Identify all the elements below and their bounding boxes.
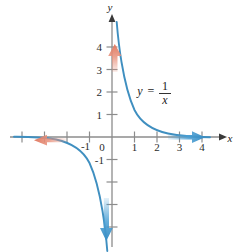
x-tick-label-2: 2 — [154, 141, 160, 153]
y-tick-label-2: 2 — [97, 86, 103, 98]
y-axis-name: y — [107, 1, 113, 13]
equation-denominator: x — [161, 93, 168, 107]
y-tick-label-1: 1 — [97, 109, 103, 121]
equation-lhs: y — [136, 84, 143, 98]
x-tick-label-neg1: -1 — [81, 140, 90, 152]
x-axis-name: x — [227, 132, 233, 144]
equation-numerator: 1 — [162, 79, 168, 93]
y-tick-label-3: 3 — [97, 64, 103, 76]
graph-figure: -1 1 2 3 4 4 3 2 1 -1 0 x y y = 1 x — [0, 0, 237, 252]
equation-operator: = — [148, 84, 155, 98]
origin-label: 0 — [99, 141, 105, 153]
x-tick-label-3: 3 — [177, 141, 183, 153]
x-tick-label-1: 1 — [132, 141, 138, 153]
y-tick-label-neg1: -1 — [95, 154, 104, 166]
y-tick-label-4: 4 — [97, 41, 103, 53]
x-tick-label-4: 4 — [199, 141, 205, 153]
